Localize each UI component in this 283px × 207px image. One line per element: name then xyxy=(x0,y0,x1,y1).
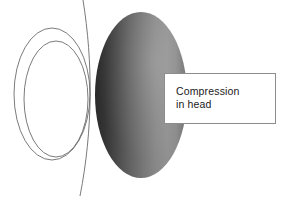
compression-callout-label: Compression in head xyxy=(176,85,271,111)
compression-callout-box: Compression in head xyxy=(164,73,276,124)
figure-canvas: Compression in head xyxy=(0,0,283,207)
vertical-curve-line xyxy=(80,0,90,196)
inner-ellipse-outline xyxy=(24,41,88,157)
